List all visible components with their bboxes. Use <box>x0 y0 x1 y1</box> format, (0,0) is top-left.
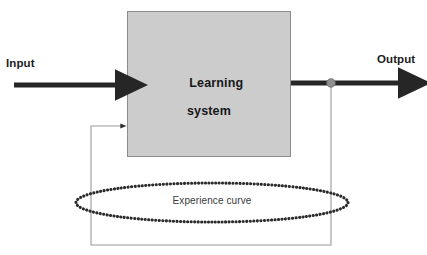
learning-system-label-line2: system <box>127 104 291 118</box>
output-label: Output <box>377 53 415 66</box>
learning-system-label: Learning system <box>127 62 291 146</box>
experience-curve-label: Experience curve <box>76 195 348 206</box>
learning-system-label-line1: Learning <box>189 76 243 90</box>
input-label: Input <box>6 57 35 70</box>
output-tap-node <box>327 79 336 88</box>
diagram-canvas: Input Output Learning system Experience … <box>0 0 427 255</box>
